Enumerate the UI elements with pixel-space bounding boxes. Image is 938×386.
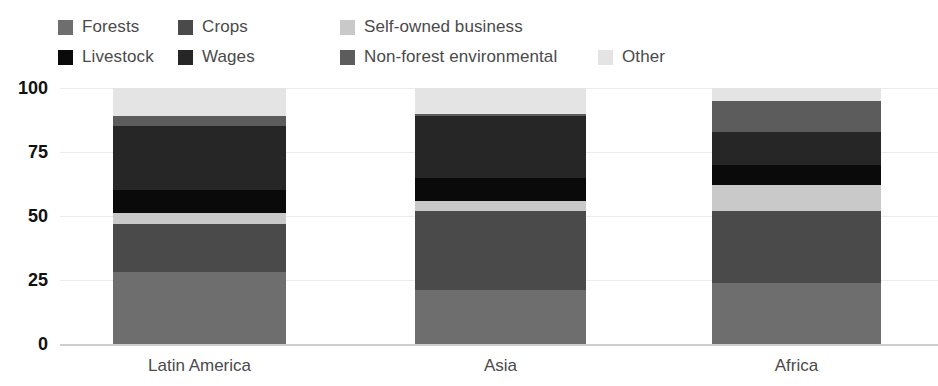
bar-asia[interactable] [415,88,586,344]
bar-segment-other[interactable] [712,88,881,101]
y-tick-label-100: 100 [2,78,48,99]
bar-segment-self-owned-business[interactable] [415,201,586,211]
bar-segment-wages[interactable] [113,126,286,190]
bar-segment-livestock[interactable] [712,165,881,185]
y-tick-label-25: 25 [2,270,48,291]
gridline-0 [60,344,938,346]
bar-africa[interactable] [712,88,881,344]
bar-segment-forests[interactable] [712,283,881,344]
bar-latin-america[interactable] [113,88,286,344]
y-tick-label-0: 0 [2,334,48,355]
x-axis-label-africa: Africa [712,356,881,376]
bar-segment-forests[interactable] [113,272,286,344]
bar-segment-other[interactable] [415,88,586,114]
x-axis-label-latin-america: Latin America [113,356,286,376]
bar-segment-self-owned-business[interactable] [113,213,286,223]
bar-segment-crops[interactable] [712,211,881,283]
bar-segment-other[interactable] [113,88,286,116]
bar-segment-wages[interactable] [712,132,881,165]
bar-segment-self-owned-business[interactable] [712,185,881,211]
bar-segment-crops[interactable] [113,224,286,273]
bar-segment-wages[interactable] [415,116,586,177]
bar-segment-non-forest-environmental[interactable] [712,101,881,132]
chart-plot-area: 0255075100 Latin AmericaAsiaAfrica [0,0,938,386]
bar-segment-livestock[interactable] [113,190,286,213]
bar-segment-forests[interactable] [415,290,586,344]
x-axis-label-asia: Asia [415,356,586,376]
y-axis: 0255075100 [2,0,48,386]
y-tick-label-75: 75 [2,142,48,163]
y-tick-label-50: 50 [2,206,48,227]
bar-segment-livestock[interactable] [415,178,586,201]
bar-segment-crops[interactable] [415,211,586,290]
bar-segment-non-forest-environmental[interactable] [113,116,286,126]
